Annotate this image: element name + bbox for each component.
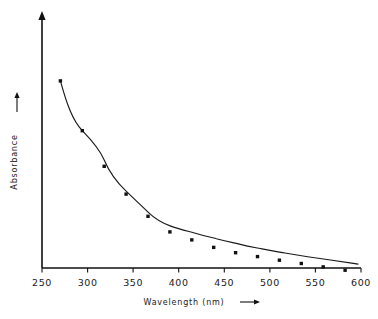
chart-canvas: 250 300 350 400 450 500 550 600 bbox=[0, 0, 378, 319]
absorbance-curve bbox=[60, 81, 358, 264]
data-marker bbox=[256, 255, 259, 258]
y-axis-title-arrow-icon bbox=[14, 92, 19, 112]
data-marker bbox=[190, 238, 193, 241]
data-marker bbox=[168, 230, 171, 233]
data-marker bbox=[234, 251, 237, 254]
x-tick-label: 300 bbox=[78, 277, 98, 288]
data-marker bbox=[212, 246, 215, 249]
x-tick-label: 450 bbox=[214, 277, 234, 288]
y-axis-title: Absorbance bbox=[10, 134, 19, 189]
data-marker bbox=[146, 215, 149, 218]
data-marker bbox=[278, 259, 281, 262]
data-markers bbox=[59, 79, 347, 272]
data-marker bbox=[343, 269, 346, 272]
x-tick-label: 500 bbox=[260, 277, 280, 288]
data-marker bbox=[81, 129, 84, 132]
data-marker bbox=[124, 192, 127, 195]
x-tick-label: 250 bbox=[32, 277, 52, 288]
x-tick-label: 400 bbox=[169, 277, 189, 288]
x-axis-tick-labels: 250 300 350 400 450 500 550 600 bbox=[32, 277, 371, 288]
x-axis-title: Wavelength (nm) bbox=[143, 298, 224, 307]
x-tick-label: 350 bbox=[123, 277, 143, 288]
data-marker bbox=[322, 265, 325, 268]
x-axis-title-arrow-icon bbox=[240, 299, 260, 304]
data-marker bbox=[59, 79, 62, 82]
data-marker bbox=[103, 165, 106, 168]
x-tick-label: 550 bbox=[305, 277, 325, 288]
absorbance-spectrum-figure: 250 300 350 400 450 500 550 600 bbox=[0, 0, 378, 319]
data-marker bbox=[300, 262, 303, 265]
x-tick-label: 600 bbox=[351, 277, 371, 288]
